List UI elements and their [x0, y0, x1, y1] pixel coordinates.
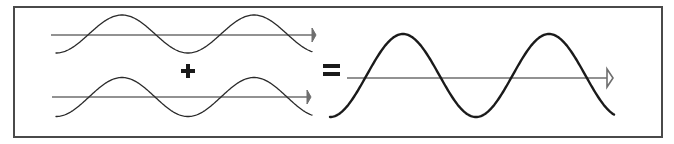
wave-1-arrow-icon: [312, 28, 316, 42]
result-wave-arrow-icon: [607, 69, 613, 87]
wave-2-arrow-icon: [307, 90, 311, 104]
input-wave-1: [51, 15, 316, 53]
interference-diagram: + =: [0, 0, 674, 144]
plus-icon: +: [181, 64, 195, 78]
equals-icon: =: [323, 64, 340, 76]
result-wave-curve: [330, 34, 614, 117]
diagram-canvas: + =: [0, 0, 674, 144]
wave-1-curve: [56, 15, 312, 53]
input-wave-2: [52, 78, 312, 117]
result-wave: [330, 34, 614, 117]
